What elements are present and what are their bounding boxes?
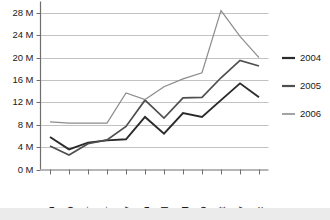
footer-band	[0, 208, 330, 220]
y-axis-tick-label: 4 M	[18, 141, 34, 152]
y-axis-tick-label: 8 M	[18, 119, 34, 130]
series-line-2006	[50, 11, 259, 123]
series-line-2005	[50, 60, 259, 155]
y-axis-tick-label: 20 M	[12, 52, 33, 63]
legend-label-2004: 2004	[300, 52, 321, 63]
data-series-lines	[50, 11, 259, 155]
y-axis-tick-label: 12 M	[12, 96, 33, 107]
line-chart-container: 0 M4 M8 M12 M16 M20 M24 M28 M JanFebMarA…	[0, 0, 330, 220]
chart-axes	[41, 2, 269, 171]
gridlines	[37, 14, 269, 171]
y-axis-tick-label: 28 M	[12, 7, 33, 18]
chart-legend: 200420052006	[282, 52, 321, 119]
y-axis-tick-label: 0 M	[18, 164, 34, 175]
chart-plot-area: 0 M4 M8 M12 M16 M20 M24 M28 M JanFebMarA…	[0, 0, 330, 220]
y-axis-tick-label: 16 M	[12, 74, 33, 85]
legend-label-2005: 2005	[300, 80, 321, 91]
legend-label-2006: 2006	[300, 108, 321, 119]
y-axis-tick-label: 24 M	[12, 29, 33, 40]
y-axis-tick-labels: 0 M4 M8 M12 M16 M20 M24 M28 M	[12, 7, 33, 175]
